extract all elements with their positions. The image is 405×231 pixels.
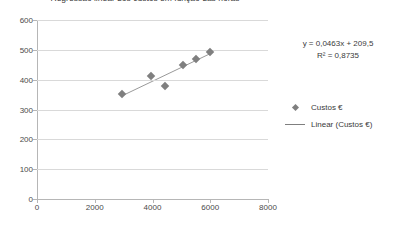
equation-line: y = 0,0463x + 209,5	[276, 38, 400, 50]
y-axis-tick	[33, 139, 37, 140]
y-axis-tick	[33, 50, 37, 51]
y-axis-tick	[33, 80, 37, 81]
y-axis-tick-label: 200	[3, 135, 33, 144]
x-axis-tick	[95, 199, 96, 203]
x-axis-tick-label: 0	[35, 203, 39, 212]
line-marker-icon	[284, 124, 306, 125]
chart-legend: Custos € Linear (Custos €)	[284, 99, 404, 133]
y-axis-tick-label: 500	[3, 45, 33, 54]
y-axis-tick-labels: 0100200300400500600	[0, 20, 33, 199]
y-axis-tick	[33, 110, 37, 111]
legend-item-custos[interactable]: Custos €	[284, 99, 404, 116]
chart-title: Regressão linear dos custos em função da…	[0, 0, 290, 3]
y-axis-tick-label: 100	[3, 165, 33, 174]
x-axis-tick	[153, 199, 154, 203]
x-axis-tick-label: 4000	[144, 203, 162, 212]
gridline	[37, 169, 268, 170]
y-axis-tick-label: 400	[3, 75, 33, 84]
x-axis-tick-label: 6000	[201, 203, 219, 212]
gridline	[37, 50, 268, 51]
chart-container: Regressão linear dos custos em função da…	[0, 0, 405, 231]
legend-label: Custos €	[306, 103, 343, 112]
x-axis-tick-labels: 02000400060008000	[37, 203, 268, 217]
plot-area	[37, 20, 268, 199]
x-axis-tick-label: 8000	[259, 203, 277, 212]
y-axis-tick-label: 300	[3, 105, 33, 114]
y-axis-tick	[33, 20, 37, 21]
y-axis-tick-label: 0	[3, 195, 33, 204]
legend-label: Linear (Custos €)	[306, 120, 372, 129]
gridline	[37, 110, 268, 111]
regression-equation-annotation: y = 0,0463x + 209,5 R² = 0,8735	[276, 38, 400, 62]
y-axis-tick-label: 600	[3, 16, 33, 25]
gridline	[37, 20, 268, 21]
y-axis-tick	[33, 169, 37, 170]
gridline	[37, 139, 268, 140]
diamond-marker-icon	[284, 105, 306, 110]
x-axis-tick	[268, 199, 269, 203]
r-squared-line: R² = 0,8735	[276, 50, 400, 62]
gridline	[37, 80, 268, 81]
legend-item-linear-custos[interactable]: Linear (Custos €)	[284, 116, 404, 133]
x-axis-tick	[37, 199, 38, 203]
x-axis-tick-label: 2000	[86, 203, 104, 212]
x-axis-tick	[210, 199, 211, 203]
